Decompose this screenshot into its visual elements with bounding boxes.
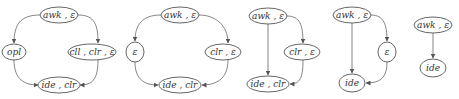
svg-text:cll , clr , ε: cll , clr , ε [69, 47, 114, 57]
graph-1: awk , ε opl cll , clr , ε ide , clr [2, 7, 116, 93]
svg-text:awk , ε: awk , ε [252, 11, 284, 21]
svg-text:ide , clr: ide , clr [42, 80, 77, 90]
graph-5: awk , ε ide [414, 17, 452, 77]
node-awk-eps: awk , ε [40, 7, 78, 23]
svg-text:clr , ε: clr , ε [289, 47, 315, 57]
node-ide: ide [339, 74, 365, 92]
node-clr-eps: clr , ε [205, 44, 241, 60]
svg-text:ε: ε [133, 47, 138, 57]
edge-clr-to-ide [290, 60, 303, 84]
graph-3: awk , ε clr , ε ide , clr [247, 8, 320, 92]
edge-awk-to-eps [371, 15, 387, 41]
edge-clr-to-ide [202, 60, 228, 85]
node-awk-eps: awk , ε [249, 8, 287, 24]
svg-text:ide , clr: ide , clr [251, 79, 286, 89]
edge-awk-to-clr [287, 16, 303, 43]
node-awk-eps: awk , ε [161, 7, 199, 23]
node-ide: ide [420, 59, 446, 77]
svg-text:awk , ε: awk , ε [336, 10, 368, 20]
svg-text:clr , ε: clr , ε [210, 47, 236, 57]
edge-awk-to-opl [14, 15, 40, 43]
edge-awk-to-eps [135, 15, 161, 41]
node-eps: ε [378, 42, 396, 62]
svg-text:ε: ε [385, 47, 390, 57]
edge-eps-to-ide [366, 62, 387, 83]
graph-4: awk , ε ε ide [333, 7, 396, 92]
node-eps: ε [126, 42, 144, 62]
node-ide-clr: ide , clr [247, 76, 289, 92]
svg-text:ide: ide [345, 78, 359, 88]
svg-text:awk , ε: awk , ε [417, 20, 449, 30]
graph-2: awk , ε ε clr , ε ide , clr [126, 7, 241, 93]
svg-text:awk , ε: awk , ε [164, 10, 196, 20]
node-ide-clr: ide , clr [159, 77, 201, 93]
edge-opl-to-ide [14, 60, 38, 85]
svg-text:ide , clr: ide , clr [163, 80, 198, 90]
edge-awk-to-cll [78, 15, 98, 43]
node-cll-clr-eps: cll , clr , ε [68, 44, 116, 60]
node-ide-clr: ide , clr [38, 77, 80, 93]
node-opl: opl [2, 44, 26, 60]
lattice-diagram: awk , ε opl cll , clr , ε ide , clr awk … [0, 0, 459, 99]
edge-cll-to-ide [80, 60, 98, 85]
svg-text:ide: ide [426, 63, 440, 73]
node-awk-eps: awk , ε [333, 7, 371, 23]
svg-text:awk , ε: awk , ε [43, 10, 75, 20]
svg-text:opl: opl [7, 47, 21, 57]
node-awk-eps: awk , ε [414, 17, 452, 33]
edge-eps-to-ide [135, 62, 158, 85]
edge-awk-to-clr [199, 15, 228, 43]
node-clr-eps: clr , ε [284, 44, 320, 60]
